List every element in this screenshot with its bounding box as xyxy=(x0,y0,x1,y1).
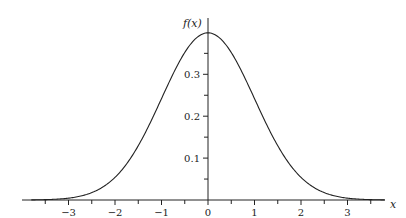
y-tick-label: 0.2 xyxy=(184,111,200,122)
x-axis-label: x xyxy=(390,198,397,211)
x-tick-label: −1 xyxy=(154,207,169,218)
normal-distribution-chart: −3−2−10123 0.10.20.3 x f(x) xyxy=(0,0,406,218)
x-tick-label: 2 xyxy=(298,207,304,218)
x-tick-label: 1 xyxy=(251,207,257,218)
x-tick-label: 0 xyxy=(205,207,211,218)
x-tick-label: −2 xyxy=(108,207,123,218)
y-tick-label: 0.1 xyxy=(184,153,200,164)
y-axis-label: f(x) xyxy=(182,17,202,30)
y-axis: 0.10.20.3 xyxy=(184,18,208,200)
y-tick-label: 0.3 xyxy=(184,69,200,80)
x-tick-label: 3 xyxy=(344,207,350,218)
x-tick-label: −3 xyxy=(61,207,76,218)
x-axis: −3−2−10123 xyxy=(22,200,385,218)
